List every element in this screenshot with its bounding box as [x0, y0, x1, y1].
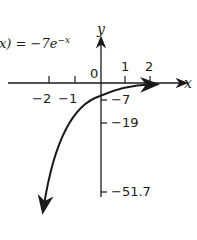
y-tick-label: −19: [111, 116, 138, 129]
exponential-curve-left: [44, 96, 100, 205]
title-text: x) = −7e: [0, 36, 57, 51]
x-axis-label: x: [184, 76, 192, 90]
function-title: x) = −7e−x: [0, 36, 70, 50]
x-ticks: [49, 76, 150, 83]
x-tick-label: −2: [32, 92, 51, 105]
y-tick-label: −51.7: [111, 185, 151, 198]
x-tick-label: 1: [121, 60, 129, 73]
y-axis-label: y: [97, 22, 105, 36]
y-tick-label: −7: [111, 93, 130, 106]
y-ticks: [101, 100, 107, 192]
title-exponent: −x: [57, 35, 70, 45]
x-tick-label: 0: [90, 67, 98, 80]
x-tick-label: −1: [58, 92, 77, 105]
x-tick-label: 2: [145, 60, 153, 73]
